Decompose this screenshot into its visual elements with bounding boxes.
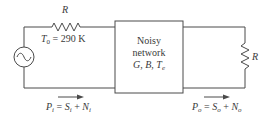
network-params: G, B, Te xyxy=(115,59,183,71)
po-equals: = xyxy=(202,101,213,112)
pi-equals: = xyxy=(54,101,65,112)
ac-sine-glyph xyxy=(17,53,31,61)
top-wire-right xyxy=(183,27,245,43)
no-subscript: o xyxy=(238,106,242,114)
network-title-line2: network xyxy=(115,47,183,59)
noise-temp-subscript: e xyxy=(162,64,165,72)
temperature-value: = 290 K xyxy=(50,33,85,44)
input-resistor-icon xyxy=(52,23,80,31)
network-title-line1: Noisy xyxy=(115,35,183,47)
load-resistor-label: R xyxy=(252,52,258,62)
ni-subscript: i xyxy=(89,106,91,114)
network-box-text: Noisy network G, B, Te xyxy=(115,35,183,71)
input-resistor-label: R xyxy=(62,5,68,15)
po-plus: + xyxy=(221,101,232,112)
output-arrow-head-icon xyxy=(223,95,230,100)
output-power-label: Po = So + No xyxy=(192,102,242,112)
input-power-label: Pi = Si + Ni xyxy=(46,102,91,112)
input-arrow-head-icon xyxy=(77,95,84,100)
right-wire-bottom xyxy=(183,69,245,88)
ni-symbol: N xyxy=(82,101,89,112)
source-temperature-label: T0 = 290 K xyxy=(41,34,85,44)
load-resistor-icon xyxy=(241,43,249,69)
pi-plus: + xyxy=(72,101,83,112)
